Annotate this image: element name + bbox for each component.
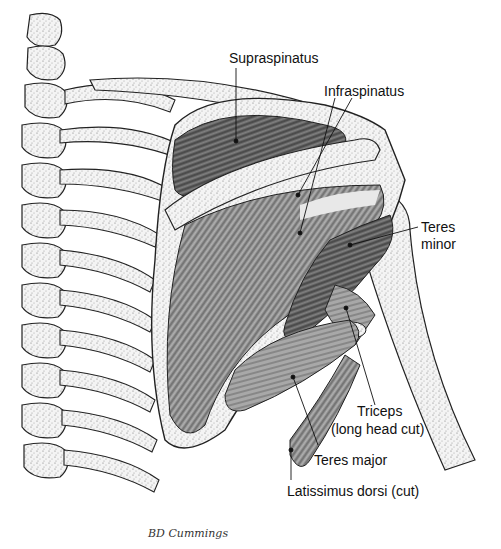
label-teres-minor-line1: Teres <box>421 219 455 236</box>
shoulder-illustration <box>0 0 501 549</box>
label-supraspinatus: Supraspinatus <box>229 50 319 67</box>
label-teres-minor-line2: minor <box>421 236 456 253</box>
label-teres-major: Teres major <box>314 452 387 469</box>
vertebral-column <box>22 13 68 478</box>
label-triceps-line1: Triceps <box>357 403 402 420</box>
artist-signature: BD Cummings <box>148 527 228 540</box>
label-infraspinatus: Infraspinatus <box>324 83 404 100</box>
anatomy-diagram: Supraspinatus Infraspinatus Teres minor … <box>0 0 501 549</box>
label-latissimus-dorsi: Latissimus dorsi (cut) <box>287 483 419 500</box>
label-triceps-line2: (long head cut) <box>331 421 424 438</box>
